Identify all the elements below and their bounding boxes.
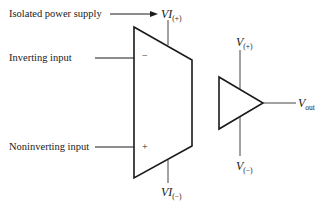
vout-label: Vout — [298, 97, 315, 112]
vi-pos-label: VI(+) — [161, 8, 182, 23]
arrow-head-icon — [150, 11, 158, 17]
minus-sign: − — [142, 51, 148, 61]
plus-sign: + — [142, 142, 148, 152]
noninverting-input-label: Noninverting input — [9, 142, 89, 153]
inverting-input-label: Inverting input — [9, 53, 72, 64]
v-pos-label: V(+) — [236, 36, 253, 51]
v-neg-label: V(−) — [236, 160, 253, 175]
isolated-power-supply-label: Isolated power supply — [9, 9, 102, 20]
output-amplifier-body — [219, 77, 263, 129]
vi-neg-label: VI(−) — [161, 186, 182, 201]
circuit-drawing — [0, 0, 327, 211]
